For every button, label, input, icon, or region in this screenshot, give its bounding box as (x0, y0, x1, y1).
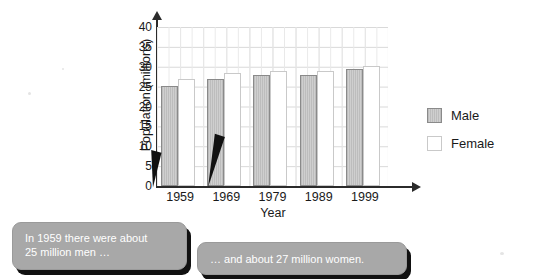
cropped-title-text (195, 0, 315, 4)
chart-screenshot: Population (millions) 4035302520151050 1… (0, 0, 549, 279)
bar-group (342, 27, 388, 186)
bar-female (178, 79, 195, 186)
y-tick-label: 40 (130, 21, 152, 33)
y-axis-tick-labels: 4035302520151050 (128, 27, 152, 186)
y-tick-label: 35 (130, 41, 152, 53)
bar-female (317, 71, 334, 186)
chart-legend: Male Female (427, 108, 494, 164)
bar-male (346, 69, 363, 186)
x-tick-label: 1979 (250, 190, 296, 204)
y-tick-label: 5 (130, 160, 152, 172)
x-tick-label: 1999 (342, 190, 388, 204)
x-tick-label: 1969 (203, 190, 249, 204)
legend-item-male: Male (427, 108, 494, 123)
female-swatch-icon (427, 136, 442, 151)
bar-group (157, 27, 203, 186)
bar-group (249, 27, 295, 186)
bar-group (296, 27, 342, 186)
bar-male (300, 75, 317, 186)
legend-label-male: Male (451, 108, 479, 123)
y-tick-label: 15 (130, 120, 152, 132)
x-axis-title: Year (243, 206, 303, 220)
bar-male (161, 86, 178, 186)
bar-series-container (157, 27, 388, 186)
y-tick-label: 30 (130, 61, 152, 73)
scan-speck (500, 252, 504, 255)
y-tick-label: 10 (130, 140, 152, 152)
legend-item-female: Female (427, 136, 494, 151)
x-axis-line (156, 186, 414, 188)
callout-male-line1: In 1959 there were about (25, 231, 174, 245)
x-tick-label: 1959 (157, 190, 203, 204)
x-tick-label: 1989 (296, 190, 342, 204)
y-axis-arrow-icon (152, 11, 162, 20)
callout-pointer-male (150, 150, 162, 189)
y-tick-label: 0 (130, 180, 152, 192)
scan-speck (28, 92, 31, 95)
x-axis-arrow-icon (412, 182, 421, 192)
y-tick-label: 25 (130, 81, 152, 93)
bar-male (253, 75, 270, 186)
scan-speck (62, 68, 64, 70)
callout-male-line2: 25 million men … (25, 245, 174, 259)
legend-label-female: Female (451, 136, 494, 151)
callout-female-line1: … and about 27 million women. (210, 252, 364, 266)
male-swatch-icon (427, 108, 442, 123)
bar-female (363, 66, 380, 186)
callout-female-bubble: … and about 27 million women. (197, 242, 407, 275)
bar-female (224, 73, 241, 186)
plot-area (157, 27, 388, 186)
y-tick-label: 20 (130, 101, 152, 113)
callout-male-bubble: In 1959 there were about 25 million men … (12, 222, 187, 270)
bar-female (270, 71, 287, 186)
